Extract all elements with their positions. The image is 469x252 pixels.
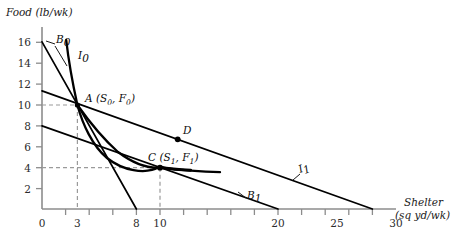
- y-tick-label-6: 6: [24, 141, 31, 153]
- x-axis-title-main: Shelter: [404, 196, 444, 208]
- guide-lines-group: [42, 105, 160, 209]
- budget-line-compensated: [42, 91, 372, 209]
- curve-label-b1: B1: [246, 189, 261, 204]
- y-tick-label-12: 12: [18, 78, 31, 90]
- leader-line-i1: [293, 174, 300, 180]
- y-ticks-group: [36, 42, 42, 188]
- y-tick-label-8: 8: [24, 120, 31, 132]
- point-label-a-s: S: [100, 92, 107, 104]
- y-tick-label-4: 4: [24, 162, 31, 174]
- x-tick-label-10: 10: [153, 217, 166, 229]
- chart-container: 16 14 12 10 8 6 4 2 0: [0, 0, 469, 252]
- point-label-d: D: [182, 124, 192, 136]
- axes-group: [42, 27, 396, 209]
- x-tick-label-25: 25: [330, 217, 343, 229]
- curve-label-b0-letter: B: [55, 33, 64, 45]
- y-axis-title: Food (lb/wk): [5, 6, 73, 18]
- point-label-c-close: ): [193, 151, 198, 163]
- y-tick-label-10: 10: [18, 99, 31, 111]
- budget-line-b0: [42, 42, 136, 209]
- curve-label-i0-sub: 0: [82, 52, 89, 64]
- point-marker-a: [75, 102, 80, 107]
- point-label-a: A (S0, F0): [84, 92, 135, 107]
- point-label-c: C (S1, F1): [148, 151, 198, 166]
- point-label-a-close: ): [130, 92, 135, 104]
- x-tick-labels-group: 0 3 8 10 20 25 30: [39, 217, 403, 229]
- x-ticks-group: [66, 209, 373, 215]
- curve-label-i1: I1: [296, 160, 312, 178]
- x-axis-title-unit: (sq yd/wk): [395, 209, 450, 221]
- leader-line-b0: [46, 41, 55, 44]
- point-marker-c: [157, 165, 163, 171]
- x-tick-label-20: 20: [271, 217, 284, 229]
- y-tick-labels-group: 16 14 12 10 8 6 4 2: [18, 36, 32, 194]
- point-label-c-letter: C: [148, 151, 156, 163]
- x-tick-label-0: 0: [39, 217, 46, 229]
- point-label-c-s: S: [164, 151, 171, 163]
- curve-label-b0: B0: [55, 33, 71, 48]
- indifference-curve-chart: 16 14 12 10 8 6 4 2 0: [0, 0, 469, 252]
- curve-label-b0-sub: 0: [64, 36, 71, 48]
- x-tick-label-8: 8: [133, 217, 140, 229]
- leader-line-b0-b: [55, 46, 67, 66]
- curve-label-b1-letter: B: [246, 189, 255, 201]
- point-marker-d: [175, 136, 181, 142]
- curve-label-b1-sub: 1: [255, 192, 262, 204]
- x-tick-label-3: 3: [74, 217, 81, 229]
- y-tick-label-16: 16: [18, 36, 32, 48]
- y-tick-label-2: 2: [24, 183, 31, 195]
- y-tick-label-14: 14: [18, 57, 32, 69]
- curve-label-i0: I0: [77, 49, 89, 64]
